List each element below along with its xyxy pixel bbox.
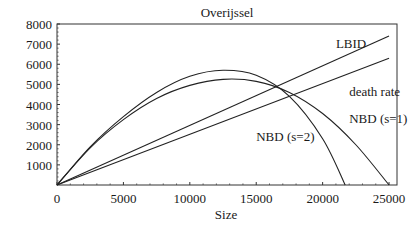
y-tick-label: 6000 xyxy=(26,57,52,72)
series-label: LBID xyxy=(336,36,366,51)
y-tick-label: 7000 xyxy=(26,37,52,52)
x-axis-label: Size xyxy=(215,207,238,222)
y-tick-label: 8000 xyxy=(26,17,52,32)
x-tick-label: 5000 xyxy=(110,191,136,206)
y-tick-label: 2000 xyxy=(26,138,52,153)
x-tick-label: 20000 xyxy=(306,191,339,206)
series-label: NBD (s=1) xyxy=(349,111,407,126)
series-line-nbd-s-2 xyxy=(57,70,345,185)
x-tick-label: 25000 xyxy=(373,191,406,206)
series-line-lbid xyxy=(57,36,389,185)
line-chart: Overijssel050001000015000200002500010002… xyxy=(0,0,419,227)
series-label: death rate xyxy=(349,84,400,99)
y-tick-label: 3000 xyxy=(26,118,52,133)
y-tick-label: 5000 xyxy=(26,77,52,92)
chart-title: Overijssel xyxy=(201,5,254,20)
x-tick-label: 0 xyxy=(54,191,61,206)
y-tick-label: 1000 xyxy=(26,158,52,173)
y-tick-label: 4000 xyxy=(26,98,52,113)
x-tick-label: 15000 xyxy=(240,191,273,206)
series-line-nbd-s-1 xyxy=(57,79,389,185)
x-tick-label: 10000 xyxy=(174,191,207,206)
series-label: NBD (s=2) xyxy=(256,129,314,144)
series-line-death-rate xyxy=(57,58,389,185)
